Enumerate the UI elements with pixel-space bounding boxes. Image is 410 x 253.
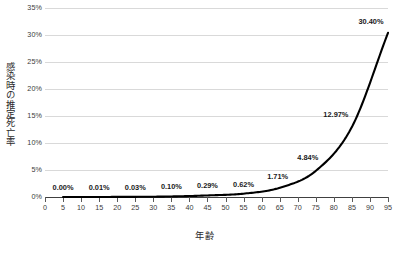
x-axis-tick-mark <box>153 197 154 202</box>
x-axis-tick-mark <box>99 197 100 202</box>
chart-container: 感染時の推定死亡率 0%5%10%15%20%25%30%35% 0510152… <box>0 0 410 253</box>
x-axis-tick-mark <box>63 197 64 202</box>
data-point-label: 0.29% <box>197 183 218 190</box>
x-axis-tick-mark <box>171 197 172 202</box>
y-axis-tick-label: 0% <box>4 193 42 200</box>
y-axis-tick-label: 5% <box>4 166 42 173</box>
x-axis-tick-mark <box>262 197 263 202</box>
data-point-label: 0.62% <box>233 181 254 188</box>
gridline <box>45 8 388 9</box>
x-axis-tick-mark <box>135 197 136 202</box>
data-point-label: 30.40% <box>358 18 383 25</box>
x-axis-tick-mark <box>244 197 245 202</box>
x-axis-tick-mark <box>207 197 208 202</box>
x-axis-tick-mark <box>280 197 281 202</box>
x-axis-tick-mark <box>117 197 118 202</box>
y-axis-tick-label: 30% <box>4 31 42 38</box>
x-axis-tick-mark <box>370 197 371 202</box>
data-point-label: 1.71% <box>267 173 288 180</box>
y-axis-tick-label: 35% <box>4 4 42 11</box>
plot-area <box>45 8 388 197</box>
gridline <box>45 170 388 171</box>
data-point-label: 0.03% <box>125 184 146 191</box>
data-point-label: 0.00% <box>53 184 74 191</box>
data-point-label: 0.01% <box>89 184 110 191</box>
gridline <box>45 143 388 144</box>
data-point-label: 12.97% <box>323 111 348 118</box>
x-axis-tick-mark <box>226 197 227 202</box>
x-axis-title: 年齢 <box>0 228 410 242</box>
x-axis-tick-mark <box>316 197 317 202</box>
y-axis-tick-label: 25% <box>4 58 42 65</box>
x-axis-tick-label: 95 <box>376 204 400 211</box>
y-axis-tick-label: 10% <box>4 139 42 146</box>
x-axis-tick-mark <box>45 197 46 202</box>
y-axis-tick-label: 20% <box>4 85 42 92</box>
y-axis-tick-label: 15% <box>4 112 42 119</box>
x-axis-tick-mark <box>352 197 353 202</box>
gridline <box>45 89 388 90</box>
data-point-label: 0.10% <box>161 184 182 191</box>
x-axis-tick-labels: 05101520253035404550556065707580859095 <box>0 204 410 218</box>
x-axis-tick-mark <box>298 197 299 202</box>
x-axis-tick-mark <box>388 197 389 202</box>
gridline <box>45 35 388 36</box>
x-axis-tick-mark <box>189 197 190 202</box>
data-point-label: 4.84% <box>297 154 318 161</box>
gridline <box>45 62 388 63</box>
x-axis-tick-mark <box>81 197 82 202</box>
x-axis-tick-mark <box>334 197 335 202</box>
